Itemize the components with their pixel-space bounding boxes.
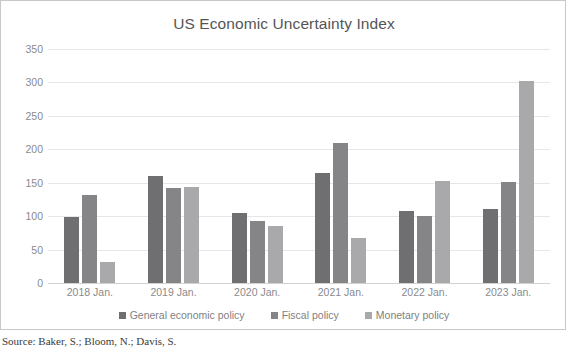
x-axis-label: 2021 Jan. (299, 286, 383, 298)
y-axis-tick: 100 (3, 210, 43, 222)
y-axis-tick: 150 (3, 177, 43, 189)
x-axis-label: 2020 Jan. (215, 286, 299, 298)
bar (166, 188, 181, 283)
bar (250, 221, 265, 283)
legend-swatch-icon (119, 312, 126, 319)
bar (82, 195, 97, 283)
y-axis-tick: 350 (3, 43, 43, 55)
plot-area (48, 49, 550, 283)
x-axis-label: 2018 Jan. (48, 286, 132, 298)
bar (351, 238, 366, 283)
bar (399, 211, 414, 283)
y-axis-tick: 250 (3, 110, 43, 122)
y-axis-tick: 0 (3, 277, 43, 289)
bar (100, 262, 115, 283)
chart-title: US Economic Uncertainty Index (1, 15, 567, 33)
x-axis-labels: 2018 Jan.2019 Jan.2020 Jan.2021 Jan.2022… (48, 286, 550, 298)
legend-label: Monetary policy (376, 309, 450, 321)
axis-baseline (48, 283, 550, 284)
bar-group (215, 49, 299, 283)
x-axis-label: 2019 Jan. (132, 286, 216, 298)
bar (333, 143, 348, 283)
bar (501, 182, 516, 283)
y-axis: 050100150200250300350 (1, 49, 43, 283)
legend-swatch-icon (271, 312, 278, 319)
bar-group (299, 49, 383, 283)
y-axis-tick: 50 (3, 244, 43, 256)
bar-cluster (215, 49, 299, 283)
bar (519, 81, 534, 283)
y-axis-tick: 300 (3, 76, 43, 88)
bar-cluster (466, 49, 550, 283)
x-axis-label: 2023 Jan. (466, 286, 550, 298)
bar (483, 209, 498, 283)
bar-cluster (48, 49, 132, 283)
bar-group (383, 49, 467, 283)
x-axis-label: 2022 Jan. (383, 286, 467, 298)
bar-groups (48, 49, 550, 283)
bar-group (48, 49, 132, 283)
source-caption: Source: Baker, S.; Bloom, N.; Davis, S. (2, 335, 402, 347)
bar (268, 226, 283, 283)
bar-group (466, 49, 550, 283)
chart-frame: US Economic Uncertainty Index 0501001502… (0, 0, 566, 330)
bar (232, 213, 247, 283)
bar-cluster (299, 49, 383, 283)
bar-cluster (132, 49, 216, 283)
bar (315, 173, 330, 283)
legend-item[interactable]: General economic policy (119, 309, 245, 321)
bar (64, 217, 79, 283)
y-axis-tick: 200 (3, 143, 43, 155)
bar (148, 176, 163, 283)
chart-legend: General economic policyFiscal policyMone… (1, 309, 567, 321)
legend-label: General economic policy (130, 309, 245, 321)
legend-label: Fiscal policy (282, 309, 339, 321)
bar (417, 216, 432, 283)
legend-item[interactable]: Monetary policy (365, 309, 450, 321)
bar (435, 181, 450, 283)
legend-swatch-icon (365, 312, 372, 319)
bar-group (132, 49, 216, 283)
bar (184, 187, 199, 283)
bar-cluster (383, 49, 467, 283)
legend-item[interactable]: Fiscal policy (271, 309, 339, 321)
chart-screenshot: US Economic Uncertainty Index 0501001502… (0, 0, 568, 348)
